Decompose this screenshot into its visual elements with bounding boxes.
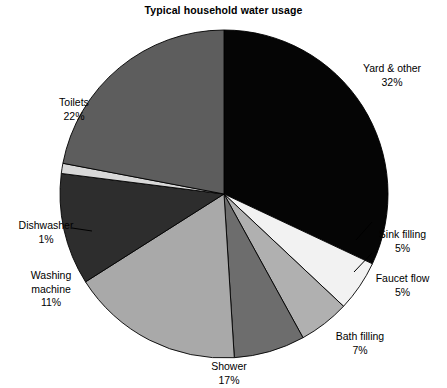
slice-label-toilets-name: Toilets	[36, 96, 112, 110]
slice-label-sink-filling-name: Sink filling	[358, 228, 447, 242]
slice-label-washing-machine-pct: 11%	[10, 296, 92, 310]
slice-label-sink-filling: Sink filling 5%	[358, 228, 447, 255]
slice-label-bath-filling: Bath filling 7%	[314, 330, 406, 357]
slice-label-bath-filling-pct: 7%	[314, 344, 406, 358]
slice-label-dishwasher: Dishwasher 1%	[4, 219, 88, 246]
slice-label-yard-other-pct: 32%	[340, 76, 444, 90]
slice-label-toilets: Toilets 22%	[36, 96, 112, 123]
slice-label-yard-other-name: Yard & other	[340, 62, 444, 76]
slice-label-yard-other: Yard & other 32%	[340, 62, 444, 89]
slice-label-shower-pct: 17%	[186, 374, 272, 388]
slice-label-washing-machine-name-line2: machine	[10, 283, 92, 297]
slice-label-faucet-flow-pct: 5%	[358, 286, 447, 300]
slice-label-sink-filling-pct: 5%	[358, 242, 447, 256]
slice-label-faucet-flow: Faucet flow 5%	[358, 272, 447, 299]
slice-label-washing-machine: Washing machine 11%	[10, 269, 92, 310]
slice-label-bath-filling-name: Bath filling	[314, 330, 406, 344]
slice-label-dishwasher-pct: 1%	[4, 233, 88, 247]
pie-slices	[60, 30, 388, 358]
slice-label-faucet-flow-name: Faucet flow	[358, 272, 447, 286]
slice-label-dishwasher-name: Dishwasher	[4, 219, 88, 233]
slice-label-washing-machine-name-line1: Washing	[10, 269, 92, 283]
pie-chart: Typical household water usage Yard & oth…	[0, 0, 447, 388]
slice-label-shower: Shower 17%	[186, 360, 272, 387]
slice-label-shower-name: Shower	[186, 360, 272, 374]
slice-label-toilets-pct: 22%	[36, 110, 112, 124]
